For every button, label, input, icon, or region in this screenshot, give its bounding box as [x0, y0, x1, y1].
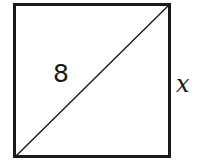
diagonal-length-label: 8: [53, 61, 69, 86]
figure-canvas: [0, 0, 203, 167]
geometry-figure: 8 x: [0, 0, 203, 167]
side-length-label: x: [176, 72, 190, 96]
